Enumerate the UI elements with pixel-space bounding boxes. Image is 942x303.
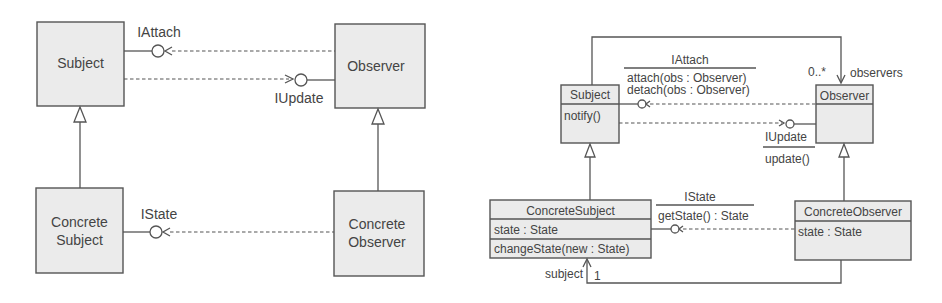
class-concrete-subject[interactable]: Concrete Subject bbox=[36, 188, 123, 273]
socket-icon bbox=[163, 228, 170, 236]
interface-iattach-label: IAttach bbox=[137, 24, 181, 40]
class-subject-label: Subject bbox=[57, 55, 104, 71]
class-observer-name: Observer bbox=[820, 89, 869, 103]
inheritance-arrow-icon bbox=[839, 144, 849, 157]
socket-icon bbox=[646, 101, 650, 107]
lollipop-icon bbox=[671, 225, 679, 233]
inheritance-arrow-icon bbox=[372, 109, 384, 124]
class-concrete-observer-attribute: state : State bbox=[798, 225, 862, 239]
interface-iattach-detailed: IAttach attach(obs : Observer) detach(ob… bbox=[619, 53, 816, 108]
generalization-subject-detailed bbox=[585, 144, 595, 200]
interface-iattach-name: IAttach bbox=[671, 53, 708, 67]
interface-iupdate: IUpdate bbox=[124, 74, 335, 106]
class-subject-operation: notify() bbox=[564, 109, 601, 123]
class-concrete-subject-name: ConcreteSubject bbox=[526, 204, 615, 218]
inheritance-arrow-icon bbox=[74, 107, 86, 122]
class-concrete-subject-label-line2: Subject bbox=[56, 232, 103, 248]
class-concrete-observer-label-line1: Concrete bbox=[349, 216, 406, 232]
interface-istate-op: getState() : State bbox=[658, 209, 749, 223]
class-concrete-subject-detailed[interactable]: ConcreteSubject state : State changeStat… bbox=[490, 200, 651, 258]
class-subject-detailed[interactable]: Subject notify() bbox=[561, 85, 619, 143]
class-subject-name: Subject bbox=[570, 88, 611, 102]
interface-iupdate-op: update() bbox=[765, 152, 810, 166]
left-diagram: Subject Observer Concrete Subject Concre… bbox=[36, 22, 425, 276]
socket-icon bbox=[165, 47, 172, 55]
class-observer-detailed[interactable]: Observer bbox=[816, 85, 873, 143]
socket-icon bbox=[679, 226, 683, 232]
inheritance-arrow-icon bbox=[585, 144, 595, 157]
interface-istate-label: IState bbox=[141, 206, 178, 222]
class-concrete-subject-label-line1: Concrete bbox=[51, 214, 108, 230]
role-observers: observers bbox=[850, 66, 903, 80]
class-observer-label: Observer bbox=[347, 58, 405, 74]
lollipop-icon bbox=[150, 226, 162, 238]
class-concrete-observer-name: ConcreteObserver bbox=[804, 205, 902, 219]
lollipop-icon bbox=[295, 74, 307, 86]
class-concrete-observer[interactable]: Concrete Observer bbox=[334, 191, 424, 276]
class-subject[interactable]: Subject bbox=[37, 22, 124, 106]
class-concrete-observer-detailed[interactable]: ConcreteObserver state : State bbox=[795, 201, 911, 260]
interface-iupdate-name: IUpdate bbox=[765, 130, 807, 144]
interface-istate-name: IState bbox=[684, 190, 716, 204]
role-subject: subject bbox=[545, 267, 584, 281]
class-observer[interactable]: Observer bbox=[335, 24, 425, 108]
interface-iupdate-label: IUpdate bbox=[274, 90, 323, 106]
class-concrete-subject-attribute: state : State bbox=[494, 223, 558, 237]
interface-istate-detailed: IState getState() : State bbox=[651, 190, 795, 233]
generalization-observer-detailed bbox=[839, 144, 849, 201]
class-concrete-subject-operation: changeState(new : State) bbox=[494, 242, 629, 256]
class-concrete-observer-label-line2: Observer bbox=[348, 234, 406, 250]
lollipop-icon bbox=[786, 120, 794, 128]
multiplicity-observers: 0..* bbox=[808, 65, 826, 79]
right-diagram: 0..* observers Subject notify() Observer… bbox=[490, 37, 911, 283]
lollipop-icon bbox=[638, 100, 646, 108]
multiplicity-subject: 1 bbox=[594, 269, 601, 283]
generalization-observer bbox=[372, 109, 384, 191]
generalization-subject bbox=[74, 107, 86, 188]
interface-iattach-op-detach: detach(obs : Observer) bbox=[627, 83, 750, 97]
interface-iupdate-detailed: IUpdate update() bbox=[619, 120, 816, 166]
interface-iattach: IAttach bbox=[124, 24, 335, 57]
lollipop-icon bbox=[152, 45, 164, 57]
association-subject: subject 1 bbox=[545, 259, 841, 283]
interface-istate: IState bbox=[123, 206, 334, 238]
